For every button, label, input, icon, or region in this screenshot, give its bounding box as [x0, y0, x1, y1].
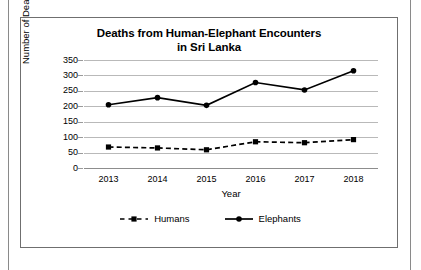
y-tick-mark [78, 137, 83, 138]
data-point-humans [106, 144, 111, 149]
y-tick-label: 50 [18, 148, 78, 157]
data-point-elephants [302, 87, 308, 93]
legend-label: Elephants [259, 214, 301, 224]
y-tick-mark [78, 91, 83, 92]
chart-legend: HumansElephants [21, 214, 399, 224]
page-right-rule [410, 0, 411, 270]
y-tick-label: 350 [18, 56, 78, 65]
data-point-elephants [204, 103, 210, 109]
plot-area: 050100150200250300350 201320142015201620… [84, 60, 378, 168]
x-axis-line [84, 168, 378, 169]
y-tick-label: 250 [18, 86, 78, 95]
data-point-humans [155, 145, 160, 150]
y-tick-label: 200 [18, 102, 78, 111]
legend-label: Humans [154, 214, 189, 224]
data-point-humans [302, 140, 307, 145]
y-tick-label: 150 [18, 117, 78, 126]
y-tick-mark [78, 60, 83, 61]
series-line-humans [109, 140, 354, 150]
x-axis-label: Year [84, 188, 378, 199]
data-point-elephants [155, 95, 161, 101]
data-point-elephants [253, 80, 259, 86]
legend-item-elephants[interactable]: Elephants [224, 214, 301, 224]
legend-swatch-solid-circle-icon [224, 214, 254, 224]
data-point-humans [351, 137, 356, 142]
chart-page: Deaths from Human-Elephant Encounters in… [0, 0, 421, 270]
figure-frame: Deaths from Human-Elephant Encounters in… [20, 17, 398, 248]
y-tick-label: 300 [18, 71, 78, 80]
y-tick-label: 0 [18, 164, 78, 173]
y-tick-label: 100 [18, 133, 78, 142]
page-left-rule [8, 0, 9, 270]
legend-swatch-dashed-square-icon [119, 214, 149, 224]
plot-wrapper: Number of Deaths 050100150200250300350 2… [21, 18, 399, 249]
x-tick-label: 2018 [324, 174, 384, 184]
y-tick-mark [78, 153, 83, 154]
legend-item-humans[interactable]: Humans [119, 214, 189, 224]
data-point-elephants [351, 68, 357, 74]
y-tick-mark [78, 122, 83, 123]
y-axis-label: Number of Deaths [20, 0, 31, 64]
y-tick-mark [78, 168, 83, 169]
data-point-humans [253, 139, 258, 144]
data-point-elephants [106, 102, 112, 108]
y-tick-mark [78, 75, 83, 76]
series-overlay [84, 60, 378, 168]
y-tick-mark [78, 106, 83, 107]
data-point-humans [204, 147, 209, 152]
series-line-elephants [109, 71, 354, 106]
